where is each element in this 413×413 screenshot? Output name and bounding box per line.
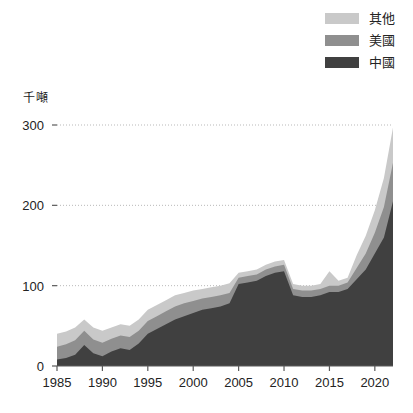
chart-legend: 其他 美國 中國 [325, 12, 399, 69]
x-tick-label: 2020 [360, 375, 389, 390]
legend-label-usa: 美國 [369, 34, 399, 47]
legend-swatch-china [325, 57, 359, 68]
y-tick-label: 100 [22, 279, 44, 294]
y-tick-label: 0 [37, 359, 44, 374]
x-tick-label: 1995 [133, 375, 162, 390]
y-axis-ticks: 0100200300 [22, 118, 57, 374]
stacked-area-chart: 其他 美國 中國 千噸 0100200300 19851990199520002… [0, 0, 413, 413]
x-tick-label: 1990 [88, 375, 117, 390]
x-axis-ticks: 19851990199520002005201020152020 [43, 366, 390, 390]
legend-item-usa[interactable]: 美國 [325, 34, 399, 47]
legend-label-other: 其他 [369, 12, 399, 25]
y-axis-unit-label: 千噸 [23, 88, 48, 105]
area-series-group [57, 127, 393, 366]
x-tick-label: 1985 [43, 375, 72, 390]
y-tick-label: 300 [22, 118, 44, 133]
legend-swatch-other [325, 13, 359, 24]
x-tick-label: 2015 [315, 375, 344, 390]
x-tick-label: 2000 [179, 375, 208, 390]
legend-item-china[interactable]: 中國 [325, 56, 399, 69]
x-tick-label: 2005 [224, 375, 253, 390]
legend-label-china: 中國 [369, 56, 399, 69]
legend-item-other[interactable]: 其他 [325, 12, 399, 25]
y-tick-label: 200 [22, 198, 44, 213]
x-tick-label: 2010 [270, 375, 299, 390]
gridlines [57, 125, 393, 286]
legend-swatch-usa [325, 35, 359, 46]
